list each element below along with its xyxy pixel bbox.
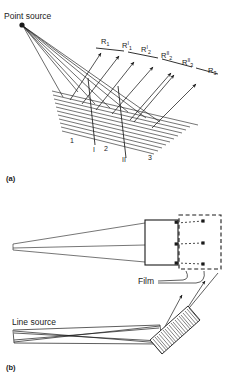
line-source-label: Line source bbox=[12, 317, 56, 327]
crystal-hatched-bar bbox=[150, 306, 201, 355]
dot-connectors bbox=[177, 221, 203, 264]
region-labels: 1 I 2 II 3 bbox=[70, 137, 152, 163]
dot-connector bbox=[177, 243, 203, 244]
film-dot bbox=[201, 219, 204, 222]
beam-edge-upper bbox=[13, 223, 145, 244]
detector-line bbox=[96, 48, 218, 74]
diffracted-ray bbox=[82, 56, 119, 104]
lattice-plane bbox=[58, 115, 170, 142]
beam-cone-top bbox=[13, 223, 145, 262]
point-source-label: Point source bbox=[4, 11, 52, 21]
film-leader-to-dashed-box bbox=[158, 271, 204, 283]
region-label-I: I bbox=[93, 146, 95, 153]
film-dot bbox=[175, 221, 178, 224]
reflection-label-R3: R3 bbox=[208, 66, 216, 76]
diffracted-ray bbox=[152, 84, 196, 128]
film-box-solid bbox=[145, 220, 178, 265]
diffracted-ray bbox=[96, 62, 134, 110]
beam-axis bbox=[13, 245, 145, 248]
incident-ray bbox=[23, 26, 95, 104]
beam-edge-lower bbox=[13, 250, 145, 262]
film-box-dashed bbox=[179, 215, 221, 269]
film-dot bbox=[201, 262, 204, 265]
solid-box-dots bbox=[175, 221, 178, 265]
caption-a: (a) bbox=[6, 174, 16, 183]
film-label: Film bbox=[138, 276, 154, 286]
crystal-outline bbox=[150, 306, 200, 354]
incident-ray bbox=[23, 26, 63, 97]
caption-b: (b) bbox=[6, 363, 16, 372]
film-dot bbox=[175, 242, 178, 245]
film-leader-to-solid-box bbox=[158, 271, 187, 281]
lattice-plane bbox=[52, 91, 198, 125]
dashed-box-dots bbox=[201, 219, 204, 265]
region-label-1: 1 bbox=[70, 137, 74, 144]
film-dot bbox=[201, 241, 204, 244]
lattice-plane bbox=[55, 103, 182, 133]
reflection-label-R2-prime: RI2 bbox=[141, 44, 151, 55]
lattice-plane bbox=[59, 119, 166, 145]
diffracted-ray bbox=[70, 53, 101, 100]
reflection-label-R1-prime: RI1 bbox=[122, 40, 132, 51]
reflection-label-R1: R1 bbox=[101, 37, 109, 47]
film-dot bbox=[175, 261, 178, 264]
lattice-plane bbox=[61, 127, 158, 151]
diffracted-ray bbox=[130, 73, 171, 120]
panel-b: Film Line source bbox=[6, 215, 221, 372]
figure-diffraction-geometry: Point source bbox=[0, 0, 229, 376]
incident-ray bbox=[23, 26, 128, 112]
detector-segment bbox=[96, 48, 124, 51]
dot-connector bbox=[177, 221, 203, 223]
reflection-label-R2-double-prime: RII2 bbox=[161, 50, 172, 61]
dot-connector bbox=[177, 263, 203, 264]
region-label-2: 2 bbox=[104, 145, 108, 152]
crystal-lattice-planes bbox=[52, 91, 198, 154]
region-label-II: II bbox=[122, 156, 126, 163]
film-leader-lines bbox=[158, 271, 204, 283]
incident-ray bbox=[23, 26, 110, 108]
lattice-plane bbox=[60, 123, 162, 148]
panel-a: Point source bbox=[4, 11, 218, 183]
line-source-beam bbox=[13, 325, 162, 344]
reflection-label-R3-double-prime: RII3 bbox=[182, 57, 193, 68]
region-label-3: 3 bbox=[148, 154, 152, 161]
